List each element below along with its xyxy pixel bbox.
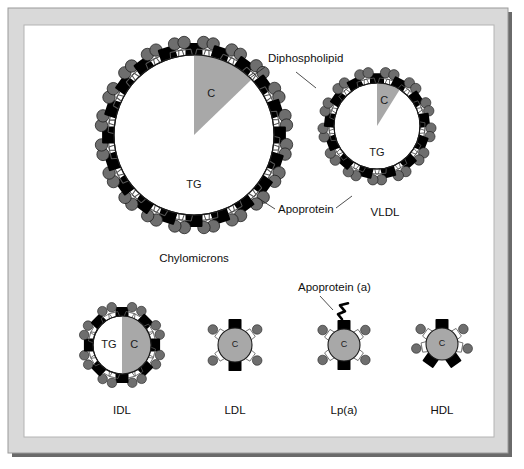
core-cholesterol-label-idl: C <box>130 338 138 350</box>
annotation-label-apoprotein-a: Apoprotein (a) <box>298 281 371 293</box>
phospholipid-head-icon <box>416 324 426 334</box>
particle-label-vldl: VLDL <box>371 206 400 218</box>
core-cholesterol-label-chylomicrons: C <box>207 87 215 99</box>
phospholipid-head-icon <box>83 360 93 370</box>
phospholipid-head-icon <box>318 325 328 335</box>
phospholipid-head-icon <box>155 330 165 340</box>
phospholipid-head-icon <box>137 374 147 384</box>
annotation-label-apoprotein: Apoprotein <box>278 203 334 215</box>
phospholipid-head-icon <box>127 302 137 312</box>
phospholipid-head-icon <box>80 351 90 361</box>
particle-label-idl: IDL <box>113 404 132 416</box>
phospholipid-head-icon <box>151 321 161 331</box>
phospholipid-head-icon <box>318 355 328 365</box>
core-label-lpa: C <box>341 339 348 349</box>
phospholipid-head-icon <box>208 356 218 366</box>
core-label-vldl: TG <box>369 146 384 158</box>
phospholipid-head-icon <box>361 355 371 365</box>
phospholipid-head-icon <box>98 306 108 316</box>
phospholipid-head-icon <box>107 378 117 388</box>
phospholipid-head-icon <box>463 344 473 354</box>
particle-label-hdl: HDL <box>430 404 454 416</box>
diagram-canvas: TGCChylomicronsTGCVLDLTGCIDLCLDLCLp(a)CH… <box>0 0 524 469</box>
phospholipid-head-icon <box>412 344 422 354</box>
core-label-chylomicrons: TG <box>186 178 201 190</box>
phospholipid-head-icon <box>252 356 262 366</box>
phospholipid-head-icon <box>79 330 89 340</box>
phospholipid-head-icon <box>178 36 190 48</box>
phospholipid-head-icon <box>107 303 117 313</box>
phospholipid-head-icon <box>155 350 165 360</box>
phospholipid-head-icon <box>208 325 218 335</box>
phospholipid-head-icon <box>128 378 138 388</box>
lipoprotein-figure: TGCChylomicronsTGCVLDLTGCIDLCLDLCLp(a)CH… <box>0 0 524 469</box>
particle-label-lpa: Lp(a) <box>331 404 358 416</box>
core-label-ldl: C <box>232 339 239 349</box>
annotation-label-diphospholipid: Diphospholipid <box>268 52 343 64</box>
phospholipid-head-icon <box>363 68 373 78</box>
core-cholesterol-label-vldl: C <box>380 94 388 106</box>
phospholipid-head-icon <box>252 325 262 335</box>
phospholipid-head-icon <box>361 325 371 335</box>
core-label-hdl: C <box>439 338 446 348</box>
phospholipid-head-icon <box>459 324 469 334</box>
particle-label-ldl: LDL <box>224 404 246 416</box>
core-label-idl: TG <box>101 338 116 350</box>
particle-label-chylomicrons: Chylomicrons <box>159 252 229 264</box>
